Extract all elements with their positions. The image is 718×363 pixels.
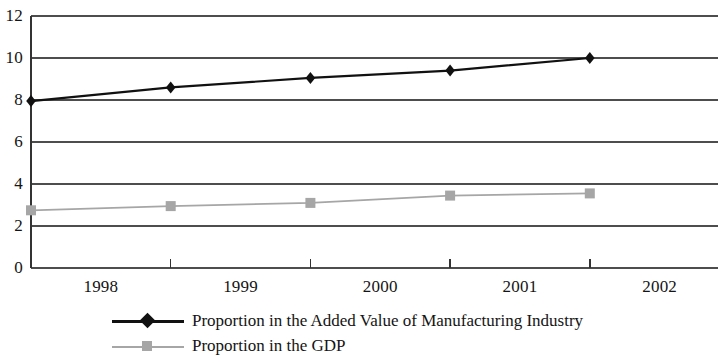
x-tick-label: 1998 (56, 278, 146, 295)
data-point-diamond (166, 81, 176, 93)
line-chart: 121086420 19981999200020012002 Proportio… (0, 0, 718, 363)
chart-legend: Proportion in the Added Value of Manufac… (112, 308, 712, 358)
x-tick-label: 1999 (196, 278, 286, 295)
data-point-square (445, 191, 455, 201)
x-tick-label: 2000 (335, 278, 425, 295)
data-point-square (166, 201, 176, 211)
legend-item-series-b: Proportion in the GDP (112, 333, 712, 358)
y-tick-label: 10 (0, 49, 23, 66)
y-tick-label: 6 (0, 133, 23, 150)
y-tick-label: 12 (0, 7, 23, 24)
legend-item-series-a: Proportion in the Added Value of Manufac… (112, 308, 712, 333)
data-point-square (26, 205, 36, 215)
x-tick-label: 2002 (615, 278, 705, 295)
y-tick-label: 4 (0, 175, 23, 192)
y-tick-label: 8 (0, 91, 23, 108)
diamond-marker-icon (140, 312, 156, 328)
square-marker-icon (142, 341, 152, 351)
legend-label-series-a: Proportion in the Added Value of Manufac… (184, 311, 583, 331)
data-point-diamond (585, 52, 595, 64)
legend-key-square (112, 336, 184, 356)
y-tick-label: 0 (0, 259, 23, 276)
data-point-diamond (306, 72, 316, 84)
data-point-square (305, 198, 315, 208)
y-tick-label: 2 (0, 217, 23, 234)
data-point-square (585, 188, 595, 198)
legend-label-series-b: Proportion in the GDP (184, 336, 345, 356)
x-tick-label: 2001 (475, 278, 565, 295)
data-point-diamond (445, 65, 455, 77)
legend-key-diamond (112, 311, 184, 331)
data-point-diamond (26, 95, 36, 107)
